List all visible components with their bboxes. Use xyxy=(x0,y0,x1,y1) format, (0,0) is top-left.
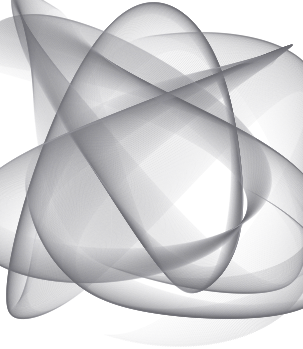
curve-layer xyxy=(0,0,303,347)
artwork-canvas: Harmonograph Mesh Dense wireframe mesh o… xyxy=(0,0,303,349)
harmonograph-figure xyxy=(0,0,303,349)
